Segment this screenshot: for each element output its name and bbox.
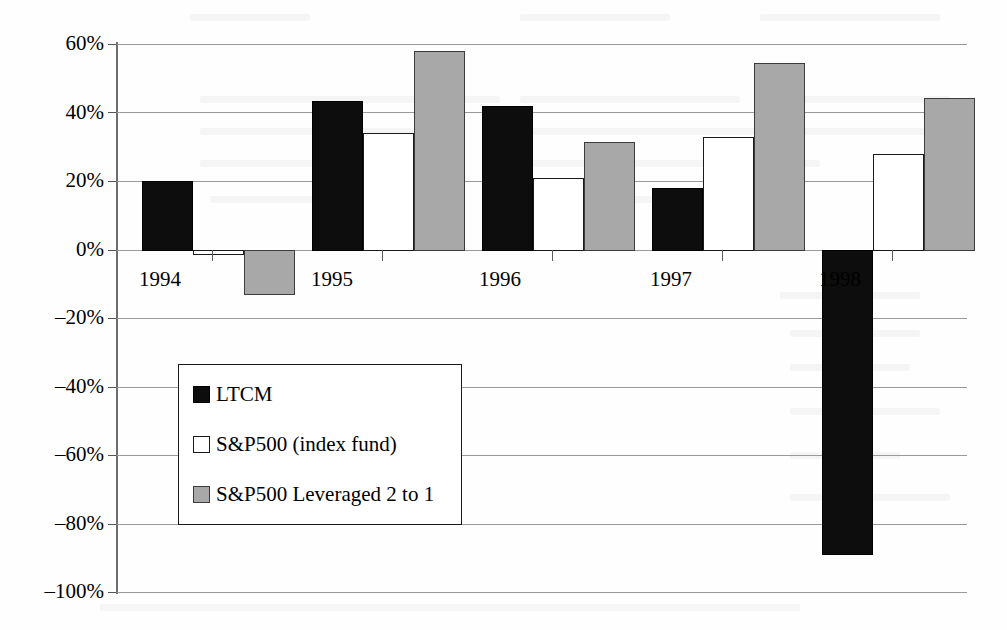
y-axis-tick-labels: 60% 40% 20% 0% –20% –40% –60% –80% –100% [0,0,104,630]
x-axis-tick [552,250,553,261]
bar-sp500-1995 [363,133,414,251]
y-tick-label: –60% [0,444,104,465]
bar-sp500-1997 [703,137,754,251]
y-tick-label: –80% [0,513,104,534]
bar-ltcm-1994 [142,181,193,251]
bar-sp500-leveraged-1997 [754,63,805,251]
x-tick-label-1996: 1996 [479,269,521,290]
legend-item-ltcm: LTCM [193,382,272,406]
bar-sp500-leveraged-1996 [584,142,635,251]
bar-sp500-leveraged-1994 [244,250,295,295]
legend-item-sp500: S&P500 (index fund) [193,432,397,456]
bar-ltcm-1995 [312,101,363,251]
x-tick-label-1995: 1995 [311,269,353,290]
y-tick-label: 60% [0,33,104,54]
bar-ltcm-1996 [482,106,533,251]
legend-swatch-sp500-leveraged-icon [193,486,210,503]
bar-sp500-leveraged-1995 [414,51,465,251]
x-tick-label-1998: 1998 [819,269,861,290]
bar-chart: 60% 40% 20% 0% –20% –40% –60% –80% –100% [0,0,1007,630]
bar-ltcm-1998 [822,250,873,555]
x-axis-tick [382,250,383,261]
y-tick-label: –100% [0,581,104,602]
x-tick-label-1997: 1997 [650,269,692,290]
y-tick-label: –20% [0,307,104,328]
bar-sp500-1996 [533,178,584,251]
y-tick-label: 0% [0,239,104,260]
legend-label-sp500: S&P500 (index fund) [216,433,397,455]
bar-sp500-1994 [193,250,244,255]
legend: LTCM S&P500 (index fund) S&P500 Leverage… [178,364,462,525]
bar-sp500-leveraged-1998 [924,98,975,251]
x-axis-tick [892,250,893,261]
gridline [117,592,967,593]
x-axis-tick [722,250,723,261]
legend-swatch-sp500-icon [193,436,210,453]
bar-ltcm-1997 [652,188,703,251]
y-tick-label: 20% [0,170,104,191]
y-tick-label: 40% [0,102,104,123]
y-tick-label: –40% [0,376,104,397]
legend-swatch-ltcm-icon [193,386,210,403]
legend-item-sp500-leveraged: S&P500 Leveraged 2 to 1 [193,482,434,506]
legend-label-ltcm: LTCM [216,383,272,405]
x-tick-label-1994: 1994 [139,269,181,290]
bar-sp500-1998 [873,154,924,251]
gridline [117,112,967,113]
x-axis-tick [212,250,213,261]
gridline [117,44,967,45]
legend-label-sp500-leveraged: S&P500 Leveraged 2 to 1 [216,483,434,505]
